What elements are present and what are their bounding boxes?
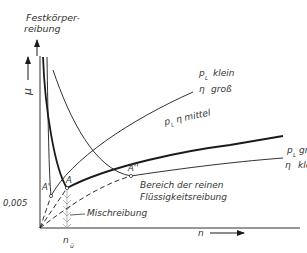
title-line2: reibung	[24, 23, 61, 34]
mixed-region-label: Mischreibung	[87, 208, 147, 218]
svg-text:p: p	[286, 145, 293, 155]
fluid-region-line2: Flüssigkeitsreibung	[140, 192, 227, 202]
n-transition-label: n	[63, 235, 69, 245]
curve1-label: p L klein η groß	[198, 68, 235, 94]
label-a-prime: A'	[41, 182, 50, 192]
label-a-double-prime: A''	[127, 163, 139, 173]
svg-text:groß: groß	[299, 145, 307, 155]
svg-text:L: L	[170, 121, 174, 128]
svg-text:p: p	[198, 68, 205, 78]
title-line1: Festkörper-	[26, 12, 80, 23]
svg-text:groß: groß	[211, 84, 232, 94]
dashed-lines	[40, 176, 131, 228]
point-a-prime	[49, 194, 52, 197]
mixed-friction-hatch	[63, 190, 71, 228]
svg-text:L: L	[205, 75, 208, 81]
y-axis-label: μ	[21, 88, 34, 96]
svg-text:η: η	[285, 160, 291, 170]
curve3-label: p L groß η klein	[285, 145, 307, 170]
svg-text:L: L	[293, 152, 296, 158]
y-tick-0005: 0,005	[3, 198, 27, 208]
stribeck-diagram: Festkörper- reibung μ n 0,005 n ü A' A	[0, 0, 307, 253]
point-a	[65, 186, 68, 189]
label-a: A	[65, 175, 72, 185]
svg-text:η: η	[199, 84, 205, 94]
svg-text:η mittel: η mittel	[175, 107, 212, 124]
point-a-double-prime	[129, 174, 132, 177]
curve2-label: p L η mittel	[162, 107, 212, 129]
svg-text:klein: klein	[298, 160, 307, 170]
curve-medium	[43, 57, 283, 188]
svg-text:klein: klein	[213, 68, 235, 78]
n-transition-sub: ü	[70, 242, 74, 249]
x-axis-label: n	[198, 228, 204, 238]
fluid-region-line1: Bereich der reinen	[140, 180, 224, 190]
mixed-leader-line	[70, 214, 85, 215]
